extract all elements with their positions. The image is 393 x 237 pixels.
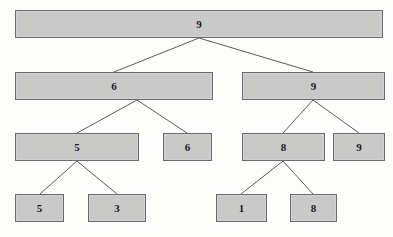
tree-node-n2: 9 [242, 72, 385, 100]
tree-node-label: 8 [281, 141, 287, 152]
tree-edge-n1-n3 [77, 100, 137, 133]
tree-node-n6: 9 [333, 133, 385, 161]
tree-edge-n3-n8 [77, 161, 117, 194]
tree-node-label: 5 [74, 141, 80, 152]
tree-node-n3: 5 [15, 133, 139, 161]
tree-node-label: 5 [37, 202, 43, 213]
tree-edge-n0-n1 [114, 38, 199, 72]
figure-canvas: 96956895318 [0, 0, 393, 237]
tree-node-label: 8 [311, 202, 317, 213]
tree-edge-n2-n5 [283, 100, 313, 133]
tree-edge-n3-n7 [40, 161, 77, 194]
tree-node-n4: 6 [163, 133, 212, 161]
tree-node-n9: 1 [216, 194, 267, 222]
tree-edge-n1-n4 [137, 100, 187, 133]
tree-node-label: 9 [356, 141, 362, 152]
tree-node-label: 9 [196, 18, 202, 29]
tree-node-label: 9 [311, 80, 317, 91]
tree-edge-n2-n6 [313, 100, 359, 133]
tree-node-label: 6 [111, 80, 117, 91]
tree-node-n8: 3 [88, 194, 146, 222]
tree-node-label: 3 [114, 202, 120, 213]
tree-node-label: 1 [239, 202, 245, 213]
tree-node-n10: 8 [290, 194, 337, 222]
tree-edge-n0-n2 [199, 38, 313, 72]
tree-edge-n5-n9 [241, 161, 283, 194]
tree-node-n0: 9 [15, 10, 383, 38]
tree-node-n7: 5 [15, 194, 64, 222]
tree-edge-n5-n10 [283, 161, 313, 194]
tree-node-n5: 8 [242, 133, 325, 161]
tree-node-n1: 6 [15, 72, 213, 100]
tree-node-label: 6 [185, 141, 191, 152]
